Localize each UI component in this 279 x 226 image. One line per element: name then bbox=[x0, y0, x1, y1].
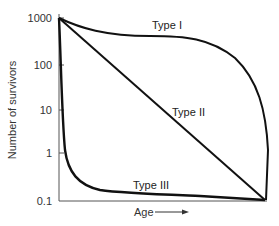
arrow-right-icon bbox=[155, 210, 189, 215]
type-1-label: Type I bbox=[152, 19, 182, 31]
type-2-label: Type II bbox=[172, 106, 205, 118]
y-tick-0.1: 0.1 bbox=[37, 195, 52, 207]
y-tick-1000: 1000 bbox=[28, 12, 52, 24]
y-tick-100: 100 bbox=[34, 59, 52, 71]
y-tick-10: 10 bbox=[40, 104, 52, 116]
survivorship-chart: 1000 100 10 1 0.1 Number of survivors Ag… bbox=[0, 0, 279, 226]
type-3-label: Type III bbox=[133, 179, 169, 191]
x-axis-title: Age bbox=[134, 206, 154, 218]
type-2-curve bbox=[59, 18, 265, 200]
y-axis-title: Number of survivors bbox=[6, 60, 18, 159]
y-tick-1: 1 bbox=[46, 147, 52, 159]
